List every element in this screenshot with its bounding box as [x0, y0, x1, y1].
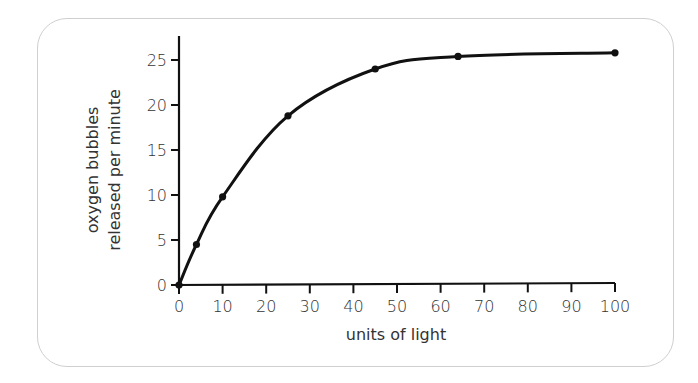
- x-tick-label: 80: [518, 297, 538, 316]
- data-point: [454, 53, 461, 60]
- x-axis-ticks: 0102030405060708090100: [174, 283, 630, 316]
- x-tick-label: 100: [600, 297, 631, 316]
- data-line: [179, 53, 615, 285]
- y-axis-title-line-2: released per minute: [105, 89, 124, 251]
- x-tick-label: 50: [387, 297, 407, 316]
- y-tick-label: 0: [157, 276, 167, 295]
- x-tick-label: 60: [430, 297, 450, 316]
- x-axis: [175, 283, 615, 285]
- y-axis-title: oxygen bubbles released per minute: [83, 89, 124, 251]
- x-tick-label: 70: [474, 297, 494, 316]
- line-chart: 0510152025 0102030405060708090100 units …: [0, 0, 698, 383]
- y-tick-label: 5: [157, 231, 167, 250]
- x-tick-label: 10: [212, 297, 232, 316]
- y-tick-label: 15: [147, 141, 167, 160]
- data-point: [611, 49, 618, 56]
- data-point: [372, 65, 379, 72]
- data-point: [193, 241, 200, 248]
- y-tick-label: 20: [147, 96, 167, 115]
- data-point: [175, 281, 182, 288]
- data-point: [219, 193, 226, 200]
- x-tick-label: 90: [561, 297, 581, 316]
- x-tick-label: 30: [300, 297, 320, 316]
- y-tick-label: 25: [147, 51, 167, 70]
- y-axis-ticks: 0510152025: [147, 51, 179, 295]
- x-axis-title: units of light: [346, 325, 446, 344]
- y-tick-label: 10: [147, 186, 167, 205]
- y-axis-title-line-1: oxygen bubbles: [83, 107, 102, 234]
- x-tick-label: 20: [256, 297, 276, 316]
- x-tick-label: 0: [174, 297, 184, 316]
- data-point: [284, 112, 291, 119]
- x-tick-label: 40: [343, 297, 363, 316]
